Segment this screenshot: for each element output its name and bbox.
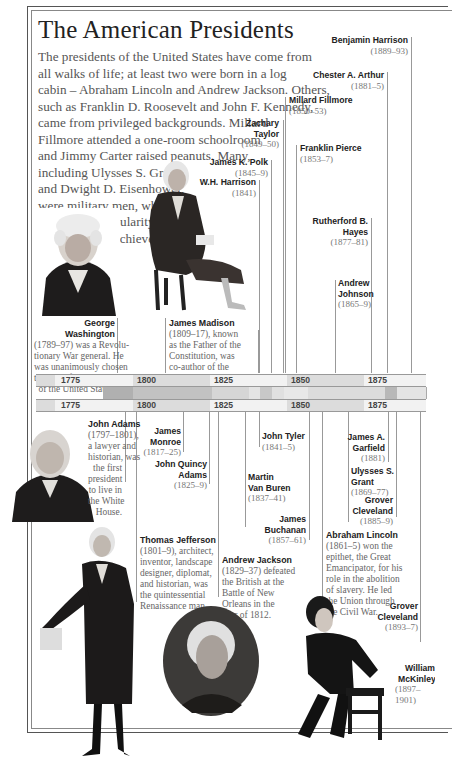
tick-1825: 1825 bbox=[214, 399, 233, 412]
leader-line-james-garfield bbox=[388, 412, 389, 462]
tick-1825: 1825 bbox=[214, 374, 233, 387]
tick-1875: 1875 bbox=[368, 374, 387, 387]
portrait-abraham-lincoln bbox=[290, 594, 386, 742]
leader-line-millard-fillmore bbox=[285, 97, 286, 373]
president-label-zachary-taylor: Zachary Taylor (1849–50) bbox=[219, 118, 279, 150]
portrait-james-madison bbox=[136, 160, 256, 318]
intro-line: such as Franklin D. Roosevelt and John F… bbox=[38, 99, 330, 116]
portrait-andrew-jackson bbox=[162, 605, 260, 717]
page-title: The American Presidents bbox=[38, 16, 294, 44]
leader-line-martin-van-buren bbox=[245, 412, 246, 527]
tick-1800: 1800 bbox=[137, 399, 156, 412]
leader-line-james-polk bbox=[271, 160, 272, 373]
president-label-ulysses-grant: Ulysses S. Grant (1869–77) bbox=[351, 466, 401, 498]
president-label-james-monroe: James Monroe (1817–25) bbox=[131, 426, 181, 458]
feature-john-adams: John Adams (1797–1801), a lawyer and his… bbox=[88, 419, 122, 518]
intro-line: came from privileged backgrounds. Millar… bbox=[38, 115, 330, 132]
intro-line: all walks of life; at least two were bor… bbox=[38, 66, 330, 83]
leader-line-john-tyler bbox=[259, 412, 260, 447]
leader-line-jq-adams bbox=[209, 412, 210, 484]
timeline-axis-bottom: 1775 1800 1825 1850 1875 bbox=[36, 399, 426, 412]
term-jefferson-monroe bbox=[133, 387, 213, 399]
president-label-rutherford-hayes: Rutherford B. Hayes (1877–81) bbox=[288, 216, 368, 248]
tick-1800: 1800 bbox=[137, 374, 156, 387]
leader-line-benjamin-harrison bbox=[411, 37, 412, 373]
term-buchanan-grant bbox=[308, 387, 386, 399]
term-washington-adams bbox=[103, 387, 134, 399]
president-label-john-quincy-adams: John Quincy Adams (1825–9) bbox=[137, 459, 207, 491]
president-label-millard-fillmore: Millard Fillmore (1850–53) bbox=[289, 95, 353, 116]
leader-line-grover-cleveland-2 bbox=[420, 412, 421, 642]
leader-line-chester-arthur bbox=[387, 72, 388, 373]
term-jqadams-jackson bbox=[212, 387, 250, 399]
tick-1850: 1850 bbox=[291, 374, 310, 387]
leader-line-james-madison bbox=[165, 318, 166, 373]
tick-1875: 1875 bbox=[368, 399, 387, 412]
intro-line: The presidents of the United States have… bbox=[38, 49, 330, 66]
term-fillmore-pierce bbox=[284, 387, 309, 399]
leader-line-andrew-jackson bbox=[218, 412, 219, 597]
portrait-thomas-jefferson bbox=[34, 524, 144, 766]
president-label-james-garfield: James A. Garfield (1881) bbox=[325, 432, 385, 464]
portrait-john-adams bbox=[10, 420, 94, 522]
president-label-james-buchanan: James Buchanan (1857–61) bbox=[246, 514, 306, 546]
timeline-axis-top: 1775 1800 1825 1850 1875 bbox=[36, 374, 426, 387]
feature-thomas-jefferson: Thomas Jefferson (1801–9), architect, in… bbox=[140, 535, 216, 612]
president-label-franklin-pierce: Franklin Pierce (1853–7) bbox=[300, 143, 362, 164]
tick-1850: 1850 bbox=[291, 399, 310, 412]
president-label-chester-arthur: Chester A. Arthur (1881–5) bbox=[313, 70, 384, 91]
term-arthur-cleveland bbox=[397, 387, 427, 399]
leader-line-wh-harrison bbox=[259, 180, 260, 373]
president-label-benjamin-harrison: Benjamin Harrison (1889–93) bbox=[332, 35, 408, 56]
intro-line: cabin – Abraham Lincoln and Andrew Jacks… bbox=[38, 82, 330, 99]
president-label-andrew-johnson: Andrew Johnson (1865–9) bbox=[338, 278, 388, 310]
leader-line-zachary-taylor bbox=[283, 120, 284, 373]
intro-line: Fillmore attended a one-room schoolroom bbox=[38, 132, 330, 149]
leader-line-james-monroe bbox=[183, 412, 184, 452]
leader-line-abraham-lincoln bbox=[322, 412, 323, 602]
timeline-presidential-terms bbox=[36, 387, 426, 399]
tick-1775: 1775 bbox=[61, 399, 80, 412]
president-label-grover-cleveland-first: Grover Cleveland (1885–9) bbox=[333, 495, 393, 527]
portrait-george-washington bbox=[36, 208, 120, 316]
leader-line-grover-cleveland-1 bbox=[396, 412, 397, 517]
leader-line-franklin-pierce bbox=[296, 145, 297, 373]
leader-line-andrew-johnson bbox=[335, 280, 336, 373]
president-label-john-tyler: John Tyler (1841–5) bbox=[262, 431, 305, 452]
president-label-martin-van-buren: Martin Van Buren (1837–41) bbox=[248, 472, 298, 504]
leader-line-james-buchanan bbox=[309, 412, 310, 540]
tick-1775: 1775 bbox=[61, 374, 80, 387]
president-label-william-mckinley: William McKinley (1897–1901) bbox=[395, 663, 435, 705]
